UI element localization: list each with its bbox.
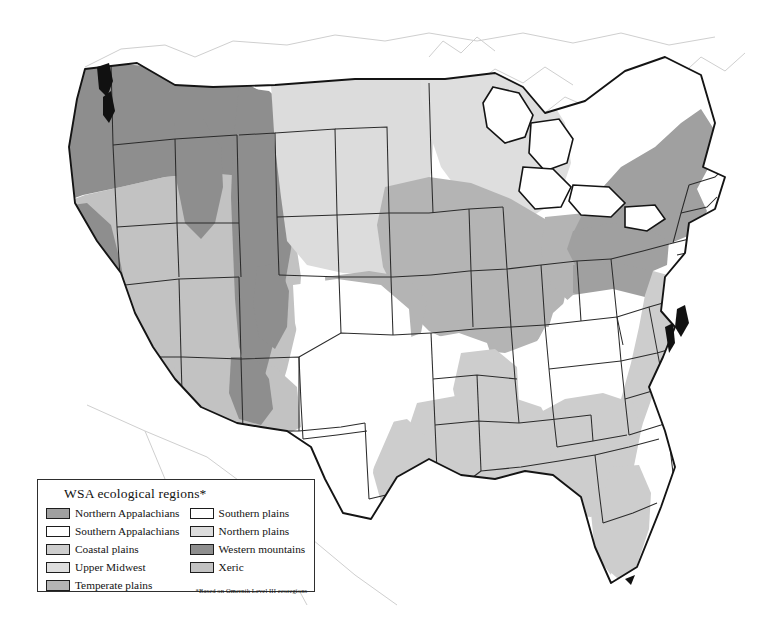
legend-item-coastal-plains: Coastal plains xyxy=(46,541,190,558)
legend-item-xeric: Xeric xyxy=(190,559,308,576)
legend-item-temperate-plains: Temperate plains xyxy=(46,577,190,594)
legend-item-southern-appalachians: Southern Appalachians xyxy=(46,523,190,540)
legend-item-southern-plains: Southern plains xyxy=(190,505,308,522)
legend-label-temperate-plains: Temperate plains xyxy=(75,580,152,591)
legend-swatch-northern-appalachians xyxy=(46,508,70,519)
legend-label-coastal-plains: Coastal plains xyxy=(75,544,139,555)
legend-label-northern-plains: Northern plains xyxy=(219,526,290,537)
legend-label-xeric: Xeric xyxy=(219,562,244,573)
legend-label-northern-appalachians: Northern Appalachians xyxy=(75,508,179,519)
legend-swatch-southern-appalachians xyxy=(46,526,70,537)
legend-columns: Northern Appalachians Southern Appalachi… xyxy=(46,505,308,594)
legend-footnote: *Based on Omernik Level III ecoregions xyxy=(196,587,308,594)
legend-swatch-temperate-plains xyxy=(46,580,70,591)
map-legend: WSA ecological regions* Northern Appalac… xyxy=(37,479,315,592)
legend-swatch-upper-midwest xyxy=(46,562,70,573)
legend-title: WSA ecological regions* xyxy=(64,486,308,502)
legend-note-row: *Based on Omernik Level III ecoregions xyxy=(190,577,308,594)
legend-item-upper-midwest: Upper Midwest xyxy=(46,559,190,576)
legend-label-southern-appalachians: Southern Appalachians xyxy=(75,526,179,537)
legend-swatch-southern-plains xyxy=(190,508,214,519)
legend-item-western-mountains: Western mountains xyxy=(190,541,308,558)
legend-swatch-coastal-plains xyxy=(46,544,70,555)
legend-label-southern-plains: Southern plains xyxy=(219,508,290,519)
legend-swatch-western-mountains xyxy=(190,544,214,555)
legend-item-northern-appalachians: Northern Appalachians xyxy=(46,505,190,522)
legend-swatch-xeric xyxy=(190,562,214,573)
legend-swatch-northern-plains xyxy=(190,526,214,537)
legend-column-left: Northern Appalachians Southern Appalachi… xyxy=(46,505,190,594)
legend-column-right: Southern plains Northern plains Western … xyxy=(190,505,308,594)
ecological-regions-map-figure: WSA ecological regions* Northern Appalac… xyxy=(0,0,780,630)
legend-label-western-mountains: Western mountains xyxy=(219,544,306,555)
legend-item-northern-plains: Northern plains xyxy=(190,523,308,540)
legend-label-upper-midwest: Upper Midwest xyxy=(75,562,146,573)
